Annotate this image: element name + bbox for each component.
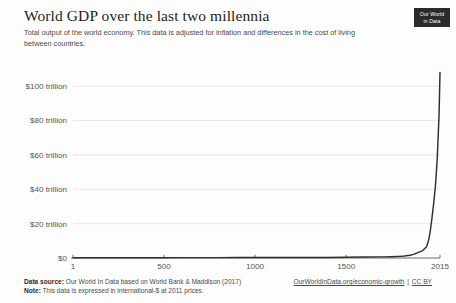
data-series bbox=[73, 72, 440, 257]
chart-page: World GDP over the last two millennia To… bbox=[0, 0, 456, 303]
data-source-label: Data source: bbox=[24, 278, 64, 285]
page-title: World GDP over the last two millennia bbox=[24, 7, 432, 25]
x-tick-label: 500 bbox=[157, 262, 171, 271]
y-tick-label: $40 trillion bbox=[30, 185, 67, 194]
y-tick-label: $0 bbox=[58, 254, 68, 263]
chart-subtitle: Total output of the world economy. This … bbox=[24, 28, 379, 49]
data-line-world-gdp bbox=[73, 72, 440, 257]
our-world-in-data-logo[interactable]: Our World in Data bbox=[414, 8, 450, 27]
note-line: Note: This data is expressed in internat… bbox=[24, 286, 284, 295]
license-link[interactable]: CC BY bbox=[412, 278, 432, 285]
source-url-link[interactable]: OurWorldInData.org/economic-growth bbox=[294, 278, 405, 285]
y-axis-labels: $0$20 trillion$40 trillion$60 trillion$8… bbox=[26, 82, 68, 263]
y-tick-label: $60 trillion bbox=[30, 151, 67, 160]
y-tick-label: $100 trillion bbox=[26, 82, 67, 91]
logo-line-2: in Data bbox=[423, 18, 440, 24]
chart-header: World GDP over the last two millennia To… bbox=[24, 7, 432, 49]
chart-plot-area: $0$20 trillion$40 trillion$60 trillion$8… bbox=[0, 55, 456, 273]
note-label: Note: bbox=[24, 287, 41, 294]
x-tick-label: 1 bbox=[71, 262, 76, 271]
footer-links: OurWorldInData.org/economic-growth | CC … bbox=[294, 277, 432, 286]
gridlines bbox=[73, 86, 440, 223]
x-tick-label: 2015 bbox=[431, 262, 450, 271]
link-separator: | bbox=[406, 277, 410, 286]
x-tick-label: 1500 bbox=[337, 262, 356, 271]
data-source-text: Our World In Data based on World Bank & … bbox=[66, 278, 241, 285]
x-axis-labels: 1500100015002015 bbox=[71, 262, 450, 271]
footer-source-block: Data source: Our World In Data based on … bbox=[24, 277, 284, 296]
line-chart-svg: $0$20 trillion$40 trillion$60 trillion$8… bbox=[0, 55, 456, 273]
note-text: This data is expressed in international-… bbox=[43, 287, 204, 294]
x-tick-label: 1000 bbox=[246, 262, 265, 271]
data-source-line: Data source: Our World In Data based on … bbox=[24, 277, 284, 286]
y-tick-label: $20 trillion bbox=[30, 220, 67, 229]
y-tick-label: $80 trillion bbox=[30, 116, 67, 125]
